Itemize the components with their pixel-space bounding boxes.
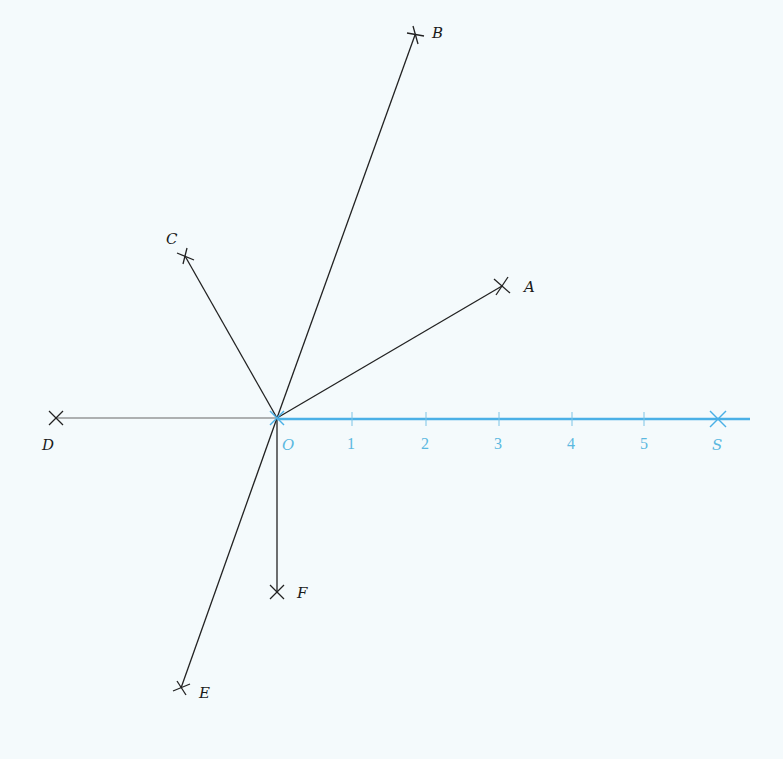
scale-end-label: S xyxy=(712,436,722,454)
point-a-marker xyxy=(494,277,510,295)
tick-label-5: 5 xyxy=(640,435,648,453)
tick-label-3: 3 xyxy=(494,435,502,453)
rays-diagram xyxy=(0,0,783,759)
tick-label-1: 1 xyxy=(347,435,355,453)
point-a-label: A xyxy=(524,278,535,296)
tick-label-4: 4 xyxy=(567,435,575,453)
point-d-label: D xyxy=(42,436,54,454)
origin-label: O xyxy=(282,436,294,454)
tick-label-2: 2 xyxy=(421,435,429,453)
point-b-label: B xyxy=(432,24,443,42)
point-e-marker xyxy=(173,681,190,695)
point-b-marker xyxy=(407,26,424,44)
point-c-marker xyxy=(177,248,194,264)
point-f-label: F xyxy=(297,584,307,602)
ray-ob xyxy=(277,35,415,418)
ray-oa xyxy=(277,286,502,418)
ray-oc xyxy=(185,256,277,418)
point-c-label: C xyxy=(166,230,177,248)
ray-oe xyxy=(181,418,277,688)
diagram-canvas: A B C D E F O 1 2 3 4 5 S xyxy=(0,0,783,759)
point-e-label: E xyxy=(199,684,210,702)
